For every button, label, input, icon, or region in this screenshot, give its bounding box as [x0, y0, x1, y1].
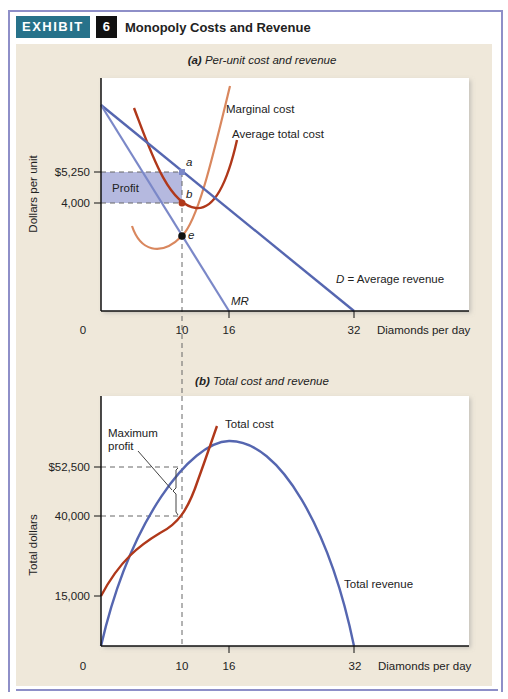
panel-b-ylabel: Total dollars: [27, 514, 39, 576]
xtick-b-10: 10: [176, 660, 189, 672]
charts-svg: (a) Per-unit cost and revenue Profit a b…: [0, 0, 508, 699]
xtick-10: 10: [176, 324, 189, 336]
max-profit-label-2: profit: [108, 440, 134, 452]
xtick-32: 32: [348, 324, 361, 336]
panel-b-xlabel: Diamonds per day: [378, 660, 472, 672]
atc-label: Average total cost: [232, 128, 325, 140]
ytick-5250: $5,250: [55, 166, 90, 178]
panel-a-ylabel: Dollars per unit: [27, 155, 39, 233]
point-e: [178, 232, 186, 240]
label-b: b: [186, 188, 193, 200]
point-b: [179, 200, 186, 207]
total-cost-label: Total cost: [225, 418, 274, 430]
panel-a-title: (a) Per-unit cost and revenue: [188, 54, 337, 66]
panel-a-xlabel: Diamonds per day: [377, 324, 471, 336]
label-e: e: [188, 229, 194, 241]
xtick-b-32: 32: [349, 660, 362, 672]
panel-b-title: (b) Total cost and revenue: [195, 375, 329, 387]
profit-label: Profit: [112, 182, 140, 194]
xtick-b-0: 0: [80, 660, 86, 672]
ytick-40000: 40,000: [55, 510, 90, 522]
ytick-52500: $52,500: [48, 461, 90, 473]
point-a: [179, 169, 185, 175]
ytick-4000: 4,000: [61, 197, 90, 209]
demand-label: D = Average revenue: [336, 273, 444, 285]
ytick-15000: 15,000: [55, 590, 90, 602]
xtick-b-16: 16: [223, 660, 236, 672]
xtick-16: 16: [223, 324, 236, 336]
xtick-0: 0: [80, 324, 86, 336]
max-profit-label-1: Maximum: [108, 427, 158, 439]
mc-label: Marginal cost: [226, 103, 295, 115]
label-a: a: [186, 156, 192, 168]
mr-label: MR: [231, 295, 249, 307]
total-revenue-label: Total revenue: [344, 578, 413, 590]
